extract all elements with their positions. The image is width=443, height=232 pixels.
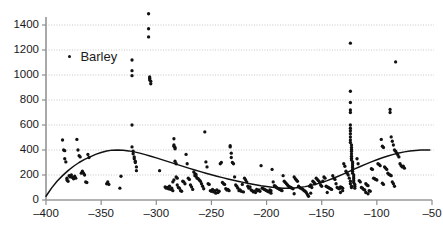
x-axis-tick-label: –50	[408, 208, 443, 220]
y-axis-tick-label: 800	[20, 94, 39, 106]
y-axis-tick-label: 1200	[13, 44, 39, 56]
legend: Barley	[68, 50, 117, 63]
x-axis-tick-label: –100	[353, 208, 401, 220]
y-axis-tick-label: 1000	[13, 69, 39, 81]
plot-area	[0, 0, 443, 232]
gridlines	[46, 25, 434, 175]
y-axis-tick-label: 600	[20, 119, 39, 131]
data-points	[61, 12, 406, 198]
y-axis-tick-label: 200	[20, 169, 39, 181]
x-axis-tick-label: –200	[243, 208, 291, 220]
y-axis-tick-label: 400	[20, 144, 39, 156]
y-axis-tick-label: 1400	[13, 19, 39, 31]
x-axis-tick-label: –300	[132, 208, 180, 220]
x-axis-tick-label: –350	[77, 208, 125, 220]
legend-marker-icon	[68, 55, 71, 58]
x-axis-tick-label: –250	[187, 208, 235, 220]
x-axis-tick-label: –400	[22, 208, 70, 220]
x-axis-tick-label: –150	[298, 208, 346, 220]
y-axis-tick-label: 0	[33, 194, 39, 206]
scatter-chart: 0200400600800100012001400 –400–350–300–2…	[0, 0, 443, 232]
legend-label: Barley	[80, 50, 117, 63]
